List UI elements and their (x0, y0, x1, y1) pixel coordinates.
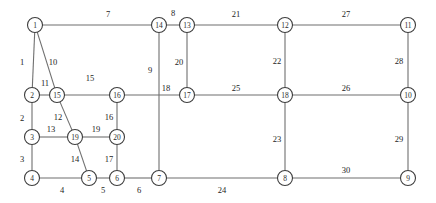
edge-label-17: 17 (105, 154, 114, 164)
edge-label-21: 21 (232, 9, 241, 19)
node-label-14: 14 (155, 21, 163, 30)
edge-label-14: 14 (71, 154, 80, 164)
edge-label-8: 8 (171, 8, 175, 18)
edge-label-6: 6 (137, 185, 141, 195)
node-label-10: 10 (404, 91, 412, 100)
node-20[interactable]: 20 (110, 130, 125, 145)
node-1[interactable]: 1 (28, 18, 43, 33)
node-4[interactable]: 4 (25, 171, 40, 186)
node-label-1: 1 (33, 21, 37, 30)
edge-label-30: 30 (342, 165, 351, 175)
node-3[interactable]: 3 (25, 130, 40, 145)
node-label-17: 17 (183, 91, 191, 100)
edge-label-27: 27 (342, 9, 351, 19)
edge-label-1: 1 (20, 57, 24, 67)
node-19[interactable]: 19 (68, 130, 83, 145)
node-7[interactable]: 7 (152, 171, 167, 186)
node-label-3: 3 (30, 133, 34, 142)
node-14[interactable]: 14 (152, 18, 167, 33)
node-13[interactable]: 13 (180, 18, 195, 33)
node-12[interactable]: 12 (278, 18, 293, 33)
node-9[interactable]: 9 (401, 171, 416, 186)
node-label-15: 15 (53, 91, 61, 100)
node-17[interactable]: 17 (180, 88, 195, 103)
node-label-20: 20 (113, 133, 121, 142)
node-label-5: 5 (87, 174, 91, 183)
edge-label-7: 7 (106, 9, 110, 19)
node-8[interactable]: 8 (278, 171, 293, 186)
node-5[interactable]: 5 (82, 171, 97, 186)
edge-label-24: 24 (218, 185, 227, 195)
edge-label-9: 9 (148, 65, 152, 75)
node-18[interactable]: 18 (278, 88, 293, 103)
node-6[interactable]: 6 (110, 171, 125, 186)
edge-label-28: 28 (395, 56, 404, 66)
node-15[interactable]: 15 (50, 88, 65, 103)
node-2[interactable]: 2 (25, 88, 40, 103)
node-label-18: 18 (281, 91, 289, 100)
edge-label-11: 11 (41, 78, 49, 88)
node-label-12: 12 (281, 21, 289, 30)
edge-label-12: 12 (54, 112, 63, 122)
node-label-19: 19 (71, 133, 79, 142)
graph-diagram: 1234567891011121314151617181920212223242… (0, 0, 436, 203)
edge-label-23: 23 (273, 134, 282, 144)
edge-label-4: 4 (60, 185, 65, 195)
edge-label-16: 16 (105, 112, 114, 122)
edge-label-19: 19 (92, 124, 101, 134)
edge-label-26: 26 (342, 83, 351, 93)
node-label-2: 2 (30, 91, 34, 100)
node-label-7: 7 (157, 174, 161, 183)
node-label-9: 9 (406, 174, 410, 183)
node-16[interactable]: 16 (110, 88, 125, 103)
node-label-13: 13 (183, 21, 191, 30)
edge-label-5: 5 (101, 185, 105, 195)
edge-labels-layer: 1234567891011121314151617181920212223242… (20, 8, 403, 195)
node-label-11: 11 (404, 21, 411, 30)
edge-label-18: 18 (162, 83, 171, 93)
edge-label-22: 22 (273, 56, 282, 66)
edge-label-10: 10 (49, 57, 58, 67)
edge-label-13: 13 (47, 124, 56, 134)
edge-label-3: 3 (20, 154, 24, 164)
edge-label-2: 2 (20, 113, 24, 123)
node-label-6: 6 (115, 174, 119, 183)
edge-label-29: 29 (395, 134, 404, 144)
node-11[interactable]: 11 (401, 18, 416, 33)
edge-label-25: 25 (232, 83, 241, 93)
node-label-8: 8 (283, 174, 287, 183)
node-label-4: 4 (30, 174, 34, 183)
edge-label-15: 15 (86, 73, 95, 83)
graph-canvas: 1234567891011121314151617181920212223242… (0, 0, 436, 203)
edge-label-20: 20 (175, 57, 184, 67)
edge-1-2 (32, 32, 34, 87)
node-label-16: 16 (113, 91, 121, 100)
edges-layer (32, 25, 408, 178)
node-10[interactable]: 10 (401, 88, 416, 103)
